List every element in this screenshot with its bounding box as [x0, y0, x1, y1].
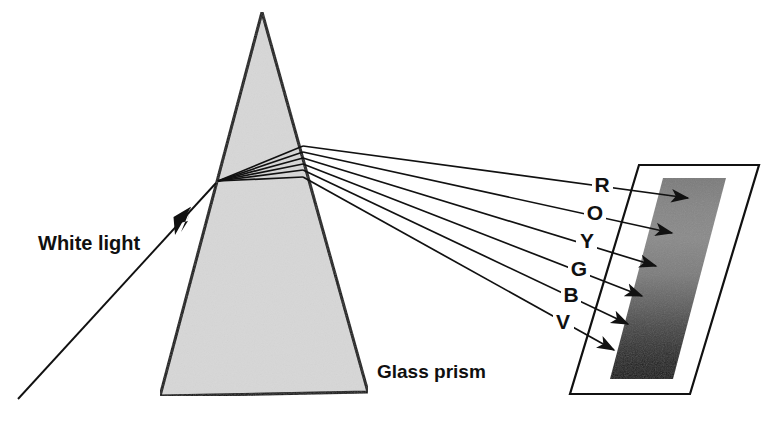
- white-light-label: White light: [38, 232, 141, 254]
- spectrum-letter-green: G: [571, 257, 587, 280]
- glass-prism-label: Glass prism: [377, 361, 486, 382]
- prism-dispersion-figure: R O Y G B V White light Glass prism: [0, 0, 782, 429]
- dispersion-diagram-svg: R O Y G B V White light Glass prism: [0, 0, 782, 429]
- spectrum-letter-violet: V: [556, 310, 570, 333]
- spectrum-letter-yellow: Y: [580, 229, 594, 252]
- incident-ray-arrow-tip: [174, 207, 192, 235]
- spectrum-letter-orange: O: [587, 201, 603, 224]
- emergent-ray-r: [303, 146, 688, 198]
- spectrum-letter-red: R: [594, 173, 609, 196]
- spectrum-letter-blue: B: [563, 283, 578, 306]
- emergent-ray-o: [303, 152, 672, 233]
- glass-prism-shape: [160, 12, 368, 396]
- prism-triangle: [160, 12, 368, 396]
